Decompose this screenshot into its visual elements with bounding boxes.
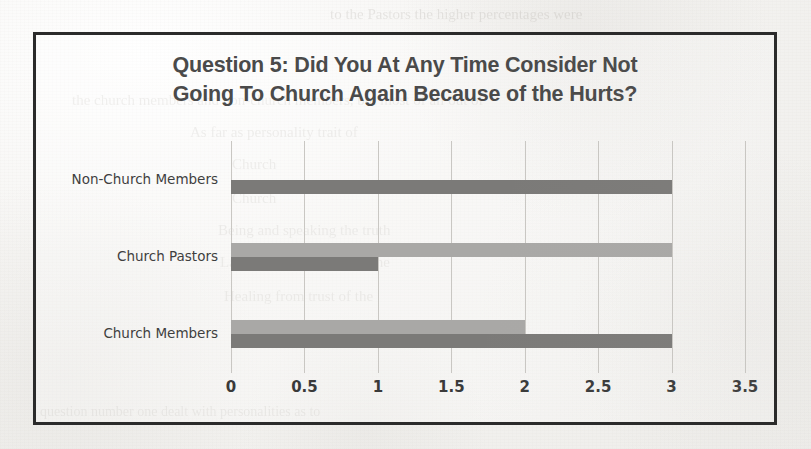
bar-group bbox=[231, 320, 745, 348]
x-tick-label: 3 bbox=[666, 378, 676, 396]
bar-group bbox=[231, 243, 745, 271]
bar-group bbox=[231, 166, 745, 194]
bar bbox=[231, 257, 378, 271]
bars-layer bbox=[231, 141, 745, 373]
plot-area bbox=[231, 141, 745, 373]
x-tick-label: 1 bbox=[373, 378, 383, 396]
x-tick-label: 1.5 bbox=[438, 378, 465, 396]
x-tick-label: 2 bbox=[519, 378, 529, 396]
bar bbox=[231, 334, 672, 348]
category-label: Non-Church Members bbox=[72, 171, 218, 187]
bar bbox=[231, 320, 525, 334]
x-tick-label: 0.5 bbox=[291, 378, 318, 396]
category-label: Church Pastors bbox=[117, 248, 218, 264]
gridline bbox=[745, 141, 746, 373]
bar bbox=[231, 243, 672, 257]
x-tick-label: 3.5 bbox=[732, 378, 759, 396]
chart-title: Question 5: Did You At Any Time Consider… bbox=[36, 51, 774, 108]
category-axis-labels: Non-Church MembersChurch PastorsChurch M… bbox=[36, 141, 226, 373]
x-axis-tick-labels: 00.511.522.533.5 bbox=[231, 378, 745, 404]
chart-title-line-1: Question 5: Did You At Any Time Consider… bbox=[62, 51, 748, 80]
x-tick-label: 2.5 bbox=[585, 378, 612, 396]
bar bbox=[231, 180, 672, 194]
chart-title-line-2: Going To Church Again Because of the Hur… bbox=[62, 80, 748, 109]
category-label: Church Members bbox=[103, 325, 218, 341]
x-tick-label: 0 bbox=[226, 378, 236, 396]
chart-frame: Question 5: Did You At Any Time Consider… bbox=[33, 32, 777, 425]
